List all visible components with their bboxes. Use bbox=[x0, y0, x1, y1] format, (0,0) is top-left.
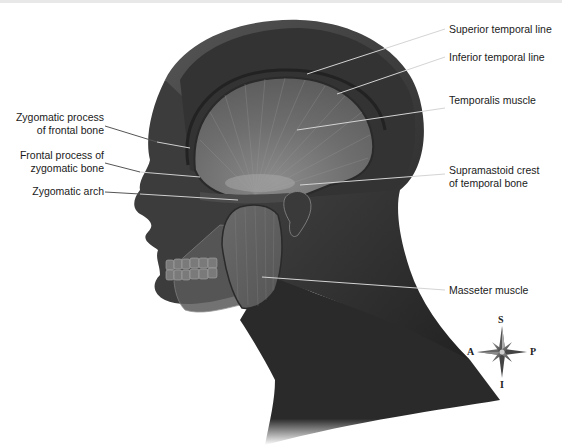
label-temporalis-muscle: Temporalis muscle bbox=[449, 94, 536, 107]
label-supramastoid-crest: Supramastoid crest of temporal bone bbox=[449, 164, 539, 189]
label-frontal-process-zygomatic: Frontal process of zygomatic bone bbox=[8, 149, 104, 174]
label-line: Zygomatic arch bbox=[8, 185, 104, 198]
label-line: Supramastoid crest bbox=[449, 164, 539, 177]
label-superior-temporal-line: Superior temporal line bbox=[449, 23, 552, 36]
compass-anterior-label: A bbox=[467, 346, 474, 357]
label-line: of temporal bone bbox=[449, 177, 539, 190]
temporalis-tendon bbox=[225, 174, 295, 192]
label-line: Superior temporal line bbox=[449, 23, 552, 36]
label-masseter-muscle: Masseter muscle bbox=[449, 284, 528, 297]
label-line: Inferior temporal line bbox=[449, 51, 545, 64]
compass-inferior-label: I bbox=[500, 379, 504, 390]
label-line: Frontal process of bbox=[8, 149, 104, 162]
teeth bbox=[166, 258, 217, 280]
label-inferior-temporal-line: Inferior temporal line bbox=[449, 51, 545, 64]
leader-zygomatic-arch bbox=[105, 192, 140, 194]
label-line: Temporalis muscle bbox=[449, 94, 536, 107]
label-zygomatic-process-frontal: Zygomatic process of frontal bone bbox=[8, 111, 104, 136]
label-line: of frontal bone bbox=[8, 124, 104, 137]
compass-rose: S I A P bbox=[462, 312, 542, 392]
label-zygomatic-arch: Zygomatic arch bbox=[8, 185, 104, 198]
label-line: Masseter muscle bbox=[449, 284, 528, 297]
compass-superior-label: S bbox=[498, 314, 504, 325]
leader-frontal-process-zygomatic bbox=[105, 163, 140, 172]
label-line: zygomatic bone bbox=[8, 162, 104, 175]
compass-posterior-label: P bbox=[530, 346, 536, 357]
label-line: Zygomatic process bbox=[8, 111, 104, 124]
